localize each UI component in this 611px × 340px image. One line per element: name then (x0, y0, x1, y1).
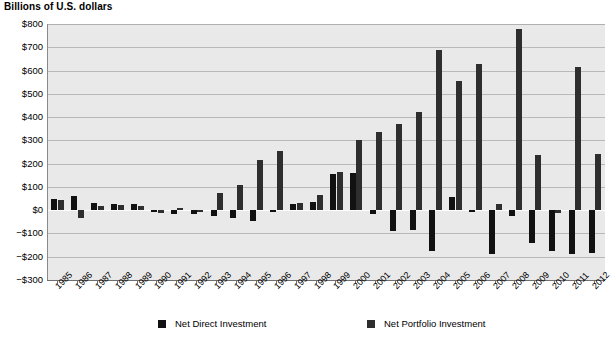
bar-net-portfolio-investment-1993 (217, 193, 223, 210)
legend-label-portfolio: Net Portfolio Investment (384, 318, 485, 329)
bar-net-portfolio-investment-2011 (575, 67, 581, 210)
bar-net-direct-investment-1999 (330, 174, 336, 210)
legend-swatch-direct-icon (158, 320, 166, 328)
y-tick-label-400: $400 (22, 112, 43, 122)
bar-net-direct-investment-1995 (250, 210, 256, 220)
bar-net-direct-investment-2012 (589, 210, 595, 253)
bar-net-portfolio-investment-2005 (456, 81, 462, 210)
bar-net-direct-investment-2009 (529, 210, 535, 243)
bar-net-portfolio-investment-2009 (535, 155, 541, 210)
bar-net-direct-investment-1998 (310, 202, 316, 210)
bar-net-direct-investment-1985 (51, 199, 57, 211)
y-tick-label-300: $300 (22, 136, 43, 146)
bar-net-direct-investment-1988 (111, 204, 117, 211)
bar-net-direct-investment-2001 (370, 210, 376, 213)
chart-title: Billions of U.S. dollars (4, 1, 113, 12)
bar-net-direct-investment-1989 (131, 204, 137, 210)
y-tick-label-700: $700 (22, 43, 43, 53)
y-tick-label-0: $0 (32, 205, 43, 215)
bar-net-portfolio-investment-1995 (257, 160, 263, 210)
bar-net-portfolio-investment-2008 (516, 29, 522, 211)
bar-net-direct-investment-1992 (191, 210, 197, 213)
bar-net-portfolio-investment-2010 (555, 210, 561, 213)
bar-net-direct-investment-2004 (429, 210, 435, 251)
legend-swatch-portfolio-icon (367, 320, 375, 328)
x-axis-labels: 1985198619871988198919901991199219931994… (0, 284, 609, 314)
bar-net-portfolio-investment-2002 (396, 124, 402, 210)
y-tick-label--200: −$200 (16, 252, 43, 262)
bar-net-direct-investment-1986 (71, 196, 77, 210)
bar-net-portfolio-investment-1986 (78, 210, 84, 218)
bar-net-direct-investment-2010 (549, 210, 555, 251)
bar-net-portfolio-investment-2007 (496, 204, 502, 210)
bar-net-portfolio-investment-1999 (337, 172, 343, 210)
y-tick-label-200: $200 (22, 159, 43, 169)
y-tick-label-500: $500 (22, 89, 43, 99)
bar-net-direct-investment-1987 (91, 203, 97, 210)
bar-net-portfolio-investment-1996 (277, 151, 283, 210)
bars-layer (48, 24, 605, 280)
bar-net-portfolio-investment-2004 (436, 50, 442, 211)
legend-item-net-portfolio-investment[interactable]: Net Portfolio Investment (367, 318, 485, 329)
y-tick-label-600: $600 (22, 66, 43, 76)
bar-net-direct-investment-1991 (171, 210, 177, 213)
bar-net-direct-investment-2008 (509, 210, 515, 216)
bar-net-direct-investment-2005 (449, 197, 455, 210)
y-tick-label--100: −$100 (16, 229, 43, 239)
y-axis-labels: $800$700$600$500$400$300$200$100$0−$100−… (0, 24, 43, 280)
bar-net-portfolio-investment-1989 (138, 206, 144, 210)
bar-net-direct-investment-1994 (230, 210, 236, 218)
bar-net-portfolio-investment-1992 (197, 210, 203, 212)
plot-area (47, 24, 605, 280)
bar-net-direct-investment-2000 (350, 173, 356, 210)
bar-net-direct-investment-1997 (290, 204, 296, 210)
bar-net-direct-investment-1996 (270, 210, 276, 212)
y-tick-label-100: $100 (22, 182, 43, 192)
bar-net-portfolio-investment-1987 (98, 206, 104, 211)
bar-net-direct-investment-2003 (410, 210, 416, 230)
bar-net-portfolio-investment-2006 (476, 64, 482, 211)
y-tick-label-800: $800 (22, 19, 43, 29)
bar-net-portfolio-investment-2000 (356, 140, 362, 210)
bar-net-portfolio-investment-2001 (376, 132, 382, 210)
bar-net-portfolio-investment-1994 (237, 185, 243, 211)
legend-label-direct: Net Direct Investment (175, 318, 266, 329)
bar-net-portfolio-investment-1991 (177, 208, 183, 210)
bar-net-direct-investment-2006 (469, 210, 475, 212)
bar-net-portfolio-investment-2012 (595, 154, 601, 210)
bar-net-portfolio-investment-1988 (118, 205, 124, 210)
bar-net-direct-investment-2007 (489, 210, 495, 254)
legend-item-net-direct-investment[interactable]: Net Direct Investment (158, 318, 266, 329)
bar-net-direct-investment-1990 (151, 210, 157, 212)
bar-net-direct-investment-1993 (211, 210, 217, 216)
bar-net-direct-investment-2011 (569, 210, 575, 254)
bar-net-portfolio-investment-1998 (317, 195, 323, 210)
bar-net-portfolio-investment-1985 (58, 200, 64, 210)
bar-net-portfolio-investment-2003 (416, 112, 422, 210)
bar-net-portfolio-investment-1990 (158, 210, 164, 213)
bar-net-portfolio-investment-1997 (297, 203, 303, 210)
chart-legend: Net Direct Investment Net Portfolio Inve… (0, 318, 609, 334)
bar-net-direct-investment-2002 (390, 210, 396, 231)
